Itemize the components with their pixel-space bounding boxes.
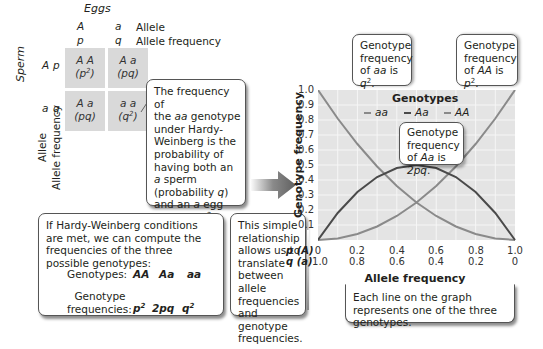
hw-conditions-callout: If Hardy-Weinberg conditions are met, we…: [38, 213, 224, 316]
y-tick: 0.2: [292, 204, 314, 215]
legend-item-aa: aa: [364, 106, 388, 118]
eggs-label: Eggs: [84, 2, 111, 15]
col-freq-p: p: [77, 34, 84, 47]
cell-genotype: A a: [108, 54, 148, 67]
aa-explanation-callout: The frequency of the aa genotype under H…: [146, 79, 246, 206]
Aa-frequency-text: Genotype frequency of Aa is 2pq.: [407, 126, 460, 176]
sperm-label: Sperm: [14, 22, 27, 82]
AA-frequency-text: Genotype frequency of AA is p2.: [464, 39, 514, 89]
cell-frequency: (p2): [65, 67, 105, 80]
row-freq-p: p: [53, 59, 60, 72]
x-tick-q: 0: [500, 256, 530, 267]
simple-relationship-text: This simple relationship allows us to tr…: [238, 219, 301, 345]
y-tick: 0.1: [292, 219, 314, 230]
aa-frequency-callout: Genotype frequency of aa is q2.: [352, 34, 412, 86]
y-tick: 0.7: [292, 129, 314, 140]
col-allele-a: a: [115, 20, 121, 33]
y-tick: 1.0: [292, 84, 314, 95]
x-tick-p: 0.8: [461, 245, 491, 256]
cell-genotype: A a: [65, 97, 105, 110]
cell-frequency: (pq): [65, 110, 105, 123]
AA-frequency-callout: Genotype frequency of AA is p2.: [456, 34, 518, 86]
punnett-cell-Aa-top: A a (pq): [108, 48, 148, 88]
cell-frequency: (pq): [108, 67, 148, 80]
punnett-cell-AA: A A (p2): [65, 48, 105, 88]
left-allele-label: Allele: [36, 112, 49, 162]
y-tick: 0.5: [292, 159, 314, 170]
x-tick-p: 0.2: [342, 245, 372, 256]
x-tick-q: 0.2: [461, 256, 491, 267]
col-allele-A: A: [77, 20, 84, 33]
left-allele-frequency-label: Allele frequency: [50, 90, 63, 190]
y-tick: 0.3: [292, 189, 314, 200]
y-tick: 0.8: [292, 114, 314, 125]
x-tick-p: 0.4: [382, 245, 412, 256]
punnett-cell-Aa-bottom: A a (pq): [65, 91, 105, 131]
Aa-frequency-callout: Genotype frequency of Aa is 2pq.: [399, 122, 464, 165]
x-tick-p: 0: [303, 245, 333, 256]
aa-frequency-text: Genotype frequency of aa is q2.: [360, 39, 408, 89]
x-tick-p: 1.0: [500, 245, 530, 256]
x-tick-q: 1.0: [305, 256, 335, 267]
x-tick-q: 0.4: [421, 256, 451, 267]
x-tick-p: 0.6: [421, 245, 451, 256]
frequencies-label: Genotype frequencies:: [67, 290, 127, 315]
each-line-callout: Each line on the graph represents one of…: [345, 284, 515, 323]
each-line-text: Each line on the graph represents one of…: [353, 291, 509, 329]
col-freq-q: q: [115, 34, 122, 47]
allele-frequency-label: Allele frequency: [136, 35, 221, 48]
y-tick: 0.6: [292, 144, 314, 155]
hw-intro-text: If Hardy-Weinberg conditions are met, we…: [46, 219, 217, 269]
legend-item-Aa: Aa: [404, 106, 429, 118]
legend: aa Aa AA: [364, 106, 524, 120]
legend-item-AA: AA: [444, 106, 469, 118]
chart-panel-left-border: [307, 230, 309, 310]
allele-label: Allele: [136, 21, 165, 34]
x-tick-q: 0.6: [382, 256, 412, 267]
legend-title: Genotypes: [392, 92, 458, 105]
cell-genotype: A A: [65, 54, 105, 67]
row-allele-A: A: [42, 59, 49, 72]
y-tick: 0.9: [292, 99, 314, 110]
x-tick-q: 0.8: [342, 256, 372, 267]
aa-explanation-text: The frequency of the aa genotype under H…: [154, 85, 241, 224]
y-tick: 0.4: [292, 174, 314, 185]
